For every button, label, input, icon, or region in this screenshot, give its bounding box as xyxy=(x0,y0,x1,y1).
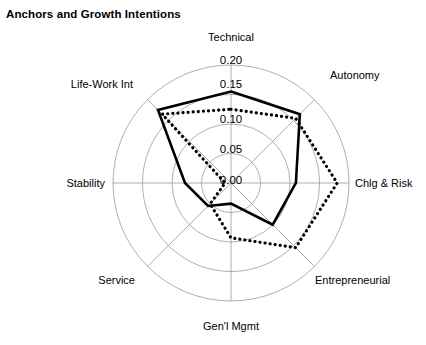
radial-tick-label: 0.00 xyxy=(220,174,242,186)
radial-tick-label: 0.20 xyxy=(220,54,242,66)
axis-label-stability: Stability xyxy=(66,177,105,189)
axis-label-autonomy: Autonomy xyxy=(330,69,380,81)
grid-spoke xyxy=(148,183,231,266)
axis-label-gen-l-mgmt: Gen'l Mgmt xyxy=(203,320,259,332)
radar-chart-figure: Anchors and Growth Intentions TechnicalA… xyxy=(0,0,426,345)
axis-label-life-work-int: Life-Work Int xyxy=(71,78,133,90)
series-polygon-dotted xyxy=(162,109,337,247)
radar-chart-canvas: TechnicalAutonomyChlg & RiskEntrepreneur… xyxy=(0,0,426,345)
radial-tick-label: 0.05 xyxy=(220,143,242,155)
axis-label-chlg-risk: Chlg & Risk xyxy=(355,177,413,189)
axis-label-technical: Technical xyxy=(208,31,254,43)
grid-spoke xyxy=(231,100,314,183)
axis-label-entrepreneurial: Entrepreneurial xyxy=(315,274,390,286)
radial-tick-label: 0.10 xyxy=(220,113,242,125)
series-group xyxy=(158,92,337,248)
axis-label-service: Service xyxy=(98,274,135,286)
page-title: Anchors and Growth Intentions xyxy=(6,8,181,20)
radial-tick-label: 0.15 xyxy=(220,78,242,90)
